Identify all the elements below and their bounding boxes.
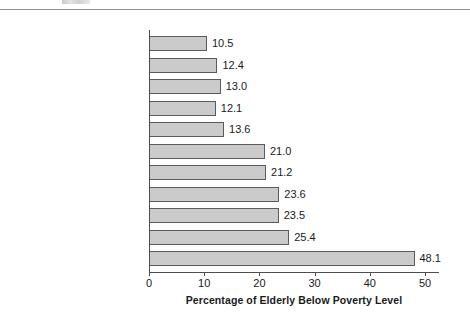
bar-value-label: 23.6 (284, 187, 305, 202)
x-axis-title: Percentage of Elderly Below Poverty Leve… (149, 294, 439, 306)
x-tick (370, 272, 371, 276)
bar-chart: All people10.5Central city12.4All people… (0, 0, 470, 317)
bar (149, 144, 265, 159)
x-tick-label: 0 (129, 277, 169, 289)
bar (149, 79, 221, 94)
x-tick-label: 50 (405, 277, 445, 289)
bar-value-label: 13.0 (226, 79, 247, 94)
x-tick-label: 20 (239, 277, 279, 289)
bar (149, 208, 279, 223)
bar-value-label: 48.1 (420, 251, 441, 266)
x-tick-label: 40 (350, 277, 390, 289)
x-tick-label: 10 (184, 277, 224, 289)
bar-value-label: 13.6 (229, 122, 250, 137)
x-tick (204, 272, 205, 276)
bar-value-label: 21.0 (270, 144, 291, 159)
bar (149, 165, 266, 180)
x-tick (315, 272, 316, 276)
bar (149, 101, 216, 116)
bar-value-label: 12.1 (221, 101, 242, 116)
bar (149, 58, 217, 73)
bar-value-label: 25.4 (294, 230, 315, 245)
bar-value-label: 12.4 (222, 58, 243, 73)
bar (149, 122, 224, 137)
x-axis-line (149, 272, 439, 273)
x-tick (425, 272, 426, 276)
bar-value-label: 21.2 (271, 165, 292, 180)
bar-value-label: 23.5 (284, 208, 305, 223)
bar (149, 187, 279, 202)
value-axis-baseline (149, 30, 150, 272)
bar (149, 251, 415, 266)
bar-value-label: 10.5 (212, 36, 233, 51)
bar (149, 230, 289, 245)
x-tick (149, 272, 150, 276)
bar (149, 36, 207, 51)
x-tick (259, 272, 260, 276)
x-tick-label: 30 (295, 277, 335, 289)
